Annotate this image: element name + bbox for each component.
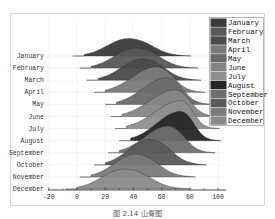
legend-swatch-february — [211, 27, 227, 35]
legend-label-june: June — [228, 64, 246, 72]
legend-swatch-january — [211, 19, 227, 27]
legend-swatch-august — [211, 81, 227, 89]
y-label-october: October — [17, 162, 44, 169]
legend-label-november: November — [228, 108, 263, 116]
legend-label-september: September — [228, 91, 268, 99]
y-label-april: April — [24, 89, 44, 96]
legend-swatch-november — [211, 108, 227, 116]
legend-label-may: May — [228, 55, 242, 63]
legend-label-april: April — [228, 46, 251, 54]
x-axis: -20020406080100 — [43, 188, 226, 202]
legend-label-march: March — [228, 37, 250, 45]
legend-swatch-march — [211, 36, 227, 44]
y-label-february: February — [13, 65, 44, 72]
ridge-december — [66, 169, 191, 189]
y-label-july: July — [28, 126, 44, 133]
y-label-november: November — [13, 174, 44, 181]
y-label-september: September — [9, 150, 44, 157]
y-label-december: December — [13, 186, 44, 193]
y-label-may: May — [32, 101, 44, 108]
y-label-march: March — [24, 77, 44, 84]
x-tick-label: 80 — [186, 194, 194, 201]
x-tick-label: 20 — [101, 194, 109, 201]
y-axis-labels: JanuaryFebruaryMarchAprilMayJuneJulyAugu… — [9, 53, 44, 193]
x-tick-label: 40 — [129, 194, 137, 201]
legend-swatch-june — [211, 63, 227, 71]
legend-label-december: December — [228, 117, 263, 125]
y-label-january: January — [17, 53, 44, 60]
x-tick-label: 0 — [75, 194, 79, 201]
legend-label-february: February — [228, 28, 264, 36]
x-tick-label: -20 — [43, 194, 55, 201]
figure-caption: 图 2.14 山脊图 — [0, 208, 275, 218]
legend-swatch-july — [211, 72, 227, 80]
legend-label-january: January — [228, 19, 260, 27]
ridgeline-chart: JanuaryFebruaryMarchAprilMayJuneJulyAugu… — [0, 0, 275, 219]
x-tick-label: 60 — [158, 194, 166, 201]
legend-swatch-december — [211, 116, 227, 124]
x-tick-label: 100 — [212, 194, 224, 201]
legend-label-july: July — [228, 73, 246, 81]
legend-swatch-october — [211, 99, 227, 107]
legend-swatch-april — [211, 45, 227, 53]
legend-swatch-may — [211, 54, 227, 62]
legend-label-august: August — [228, 82, 255, 90]
y-label-august: August — [21, 138, 45, 145]
ridges — [66, 39, 221, 190]
legend-label-october: October — [228, 99, 259, 107]
legend: JanuaryFebruaryMarchAprilMayJuneJulyAugu… — [210, 18, 268, 126]
legend-swatch-september — [211, 90, 227, 98]
y-label-june: June — [28, 114, 44, 121]
